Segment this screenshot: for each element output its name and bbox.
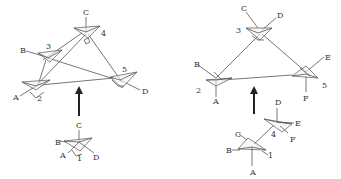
label-A: A xyxy=(249,168,256,177)
label-E: E xyxy=(295,119,301,128)
label-C: C xyxy=(235,130,241,139)
label-C: C xyxy=(76,121,82,130)
label-F: F xyxy=(303,94,309,103)
diagram-canvas: C B A D 2 3 4 5 C B A D 1 xyxy=(0,0,341,179)
label-A: A xyxy=(59,151,66,160)
label-C: C xyxy=(241,4,247,13)
right-arrow-up xyxy=(250,86,258,114)
label-2: 2 xyxy=(37,94,42,103)
label-1: 1 xyxy=(268,151,273,160)
label-4: 4 xyxy=(101,29,106,38)
label-D: D xyxy=(142,87,148,96)
label-F: F xyxy=(290,135,296,144)
label-2: 2 xyxy=(196,86,201,95)
tetrahedron-2 xyxy=(206,78,232,86)
label-B: B xyxy=(226,146,232,155)
label-D: D xyxy=(275,98,281,107)
label-1: 1 xyxy=(77,154,82,163)
label-3: 3 xyxy=(236,26,241,35)
right-top-framework: C D B A E F 2 3 5 xyxy=(194,4,331,106)
label-A: A xyxy=(12,93,19,102)
label-5: 5 xyxy=(122,65,127,74)
label-B: B xyxy=(194,60,200,69)
left-bottom-tetrahedron-1: C B A D 1 xyxy=(55,121,99,163)
label-B: B xyxy=(55,138,61,147)
label-D: D xyxy=(277,11,283,20)
label-D: D xyxy=(93,153,99,162)
right-bottom-linked-tetrahedra: D E F C B A 1 4 xyxy=(226,98,301,177)
label-E: E xyxy=(325,53,331,62)
label-A: A xyxy=(212,97,219,106)
label-B: B xyxy=(20,46,26,55)
label-C: C xyxy=(83,8,89,17)
label-4: 4 xyxy=(271,130,276,139)
label-3: 3 xyxy=(46,42,51,51)
left-arrow-up xyxy=(75,86,83,116)
label-5: 5 xyxy=(322,81,327,90)
